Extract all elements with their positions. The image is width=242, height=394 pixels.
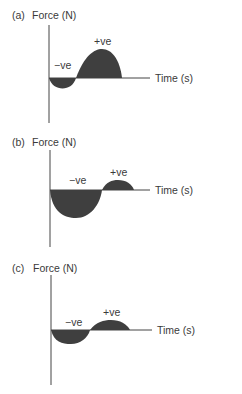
panel-a-x-axis-label: Time (s) <box>155 72 193 84</box>
panel-b-negative-lobe <box>50 190 102 218</box>
panel-c: (c) Force (N) −ve +ve Time (s) <box>12 262 195 385</box>
panel-c-negative-lobe <box>51 330 90 344</box>
panel-a-positive-lobe <box>76 49 122 78</box>
panel-c-positive-lobe <box>90 320 130 330</box>
panel-a-y-axis-label: Force (N) <box>32 9 76 21</box>
panel-c-negative-label: −ve <box>65 316 82 328</box>
panel-b-negative-label: −ve <box>69 174 86 186</box>
panel-c-label: (c) <box>12 262 24 274</box>
panel-c-x-axis-label: Time (s) <box>157 324 195 336</box>
panel-c-y-axis-label: Force (N) <box>33 262 77 274</box>
panel-b-positive-label: +ve <box>110 166 127 178</box>
panel-a-label: (a) <box>12 9 25 21</box>
panel-b-x-axis-label: Time (s) <box>155 184 193 196</box>
panel-b-y-axis-label: Force (N) <box>32 136 76 148</box>
force-time-diagram: (a) Force (N) −ve +ve Time (s) (b) Force… <box>0 0 242 394</box>
panel-b-positive-lobe <box>102 180 134 190</box>
panel-b-label: (b) <box>12 136 25 148</box>
panel-a-positive-label: +ve <box>94 35 111 47</box>
panel-a: (a) Force (N) −ve +ve Time (s) <box>12 9 193 123</box>
panel-b: (b) Force (N) −ve +ve Time (s) <box>12 136 193 247</box>
panel-c-positive-label: +ve <box>103 306 120 318</box>
panel-a-negative-lobe <box>49 78 76 89</box>
panel-a-negative-label: −ve <box>54 59 71 71</box>
